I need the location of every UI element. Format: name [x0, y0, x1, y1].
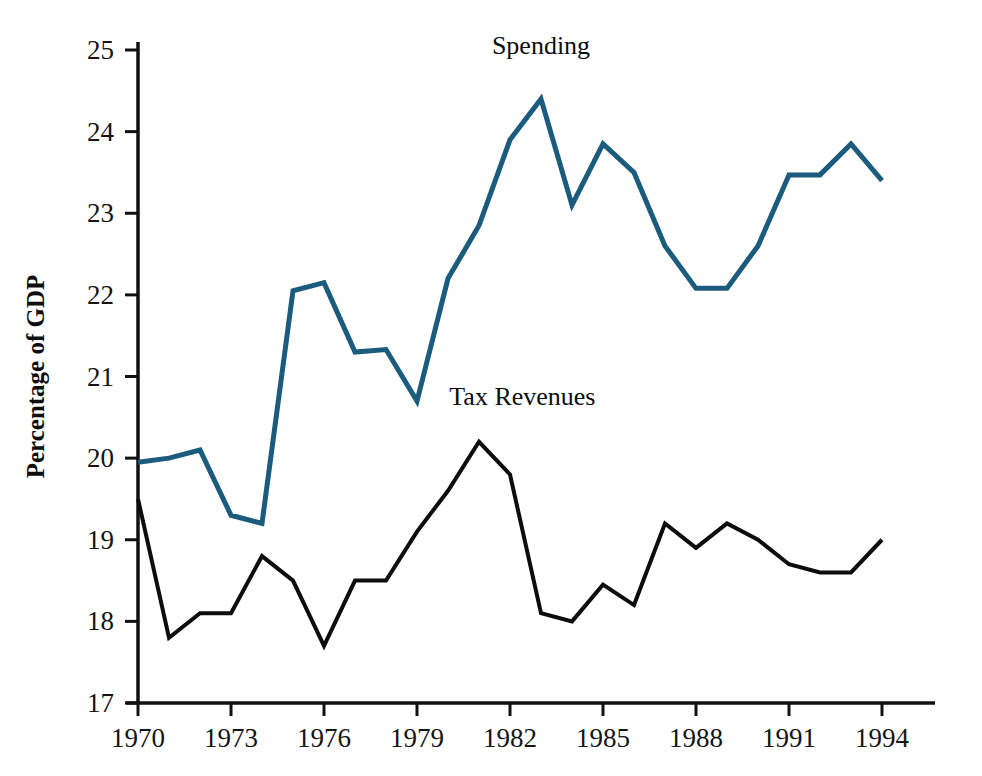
y-tick-label: 21	[87, 362, 114, 392]
chart-container: 171819202122232425 197019731976197919821…	[0, 0, 982, 776]
y-tick-label: 19	[87, 525, 114, 555]
y-tick-label: 22	[87, 280, 114, 310]
y-tick-label: 20	[87, 443, 114, 473]
x-axis: 197019731976197919821985198819911994	[111, 703, 935, 753]
line-chart: 171819202122232425 197019731976197919821…	[0, 0, 982, 776]
y-tick-label: 18	[87, 606, 114, 636]
x-tick-label: 1976	[297, 723, 351, 753]
y-axis-title: Percentage of GDP	[22, 275, 49, 479]
series-labels: SpendingTax Revenues	[449, 31, 595, 411]
x-tick-label: 1994	[855, 723, 910, 753]
y-tick-label: 23	[87, 198, 114, 228]
axis-titles: Percentage of GDP	[22, 275, 49, 479]
series-lines	[138, 99, 882, 646]
x-tick-label: 1985	[576, 723, 630, 753]
series-label-spending: Spending	[492, 31, 590, 60]
y-tick-label: 25	[87, 35, 114, 65]
y-axis: 171819202122232425	[87, 35, 138, 718]
x-tick-label: 1979	[390, 723, 444, 753]
x-tick-label: 1991	[762, 723, 816, 753]
x-tick-label: 1982	[483, 723, 537, 753]
series-line-spending	[138, 99, 882, 523]
x-tick-label: 1973	[204, 723, 258, 753]
y-tick-label: 24	[87, 117, 115, 147]
series-label-tax-revenues: Tax Revenues	[449, 382, 595, 411]
x-tick-label: 1970	[111, 723, 165, 753]
y-tick-label: 17	[87, 688, 114, 718]
x-tick-label: 1988	[669, 723, 723, 753]
series-line-tax-revenues	[138, 442, 882, 646]
